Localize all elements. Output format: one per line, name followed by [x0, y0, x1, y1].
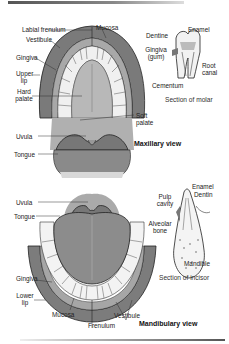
label-gingiva-gum-line1: Gingiva: [145, 46, 167, 53]
label-root-canal-line2: canal: [202, 69, 217, 76]
label-enamel-incisor: Enamel: [192, 183, 214, 190]
label-root-canal-line1: Root: [202, 62, 216, 69]
label-pulp-cavity-line1: Pulp: [159, 193, 172, 200]
label-mucosa: Mucosa: [96, 24, 118, 31]
maxillary-view-title: Maxillary view: [134, 140, 181, 147]
label-upper-lip: Upper lip: [16, 70, 32, 84]
label-hard-palate: Hard palate: [14, 88, 34, 102]
label-hard-palate-line1: Hard: [17, 88, 31, 95]
label-gingiva: Gingiva: [16, 54, 38, 61]
label-vestibule-lower: Vestibule: [114, 312, 140, 319]
label-cementum: Cementum: [152, 82, 183, 89]
label-hard-palate-line2: palate: [15, 95, 32, 102]
label-dentin: Dentin: [194, 191, 212, 198]
label-alveolar-bone: Alveolar bone: [145, 220, 175, 234]
incisor-caption: Section of incisor: [159, 274, 209, 281]
label-soft-palate-line2: palate: [136, 119, 153, 126]
label-vestibule: Vestibule: [26, 36, 52, 43]
molar-section-illustration: [172, 30, 200, 78]
label-lower-lip-line1: Lower: [16, 292, 33, 299]
label-pulp-cavity: Pulp cavity: [154, 193, 176, 207]
label-enamel: Enamel: [188, 26, 210, 33]
label-gingiva-lower: Gingiva: [16, 275, 38, 282]
label-pulp-cavity-line2: cavity: [157, 200, 173, 207]
label-root-canal: Root canal: [202, 62, 217, 76]
label-gingiva-gum: Gingiva (gum): [142, 46, 170, 60]
label-soft-palate: Soft palate: [136, 112, 153, 126]
maxillary-illustration: [39, 26, 144, 178]
label-labial-frenulum: Labial frenulum: [22, 26, 66, 33]
label-lower-lip: Lower lip: [16, 292, 34, 306]
mandibular-illustration: [28, 194, 156, 322]
label-alveolar-bone-line1: Alveolar: [148, 220, 171, 227]
label-tongue: Tongue: [14, 151, 35, 158]
label-frenulum: Frenulum: [88, 322, 115, 329]
label-mandible: Mandible: [184, 260, 210, 267]
mandibular-view-title: Mandibulary view: [139, 320, 197, 327]
label-alveolar-bone-line2: bone: [153, 227, 167, 234]
label-tongue-lower: Tongue: [14, 213, 35, 220]
label-lower-lip-line2: lip: [22, 299, 28, 306]
label-mucosa-lower: Mucosa: [52, 311, 74, 318]
label-uvula-lower: Uvula: [16, 199, 32, 206]
label-gingiva-gum-line2: (gum): [148, 53, 165, 60]
mouth-anatomy-illustration: [0, 0, 229, 344]
molar-caption: Section of molar: [165, 96, 213, 103]
label-dentine: Dentine: [146, 32, 168, 39]
label-upper-lip-line2: lip: [21, 77, 27, 84]
label-uvula: Uvula: [16, 133, 32, 140]
label-soft-palate-line1: Soft: [136, 112, 147, 119]
label-upper-lip-line1: Upper: [16, 70, 33, 77]
